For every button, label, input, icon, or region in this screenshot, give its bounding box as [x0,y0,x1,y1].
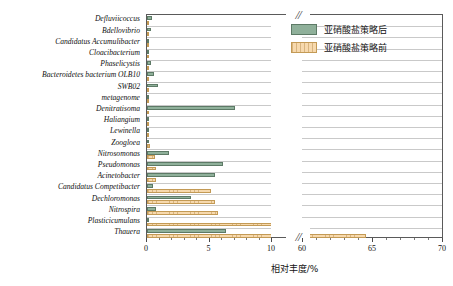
x-minor-tick [234,238,235,240]
bar-before [147,99,149,103]
bar-after [147,128,149,132]
bar-after [147,72,154,76]
x-tick-label: 60 [298,244,306,253]
x-minor-tick [246,238,247,240]
bar-after [147,84,158,88]
bar-before [147,66,149,70]
x-minor-tick [221,238,222,240]
x-minor-tick [386,238,387,240]
bar-after [147,207,156,211]
legend-label-after: 亚硝酸盐策略后 [324,23,387,36]
x-minor-tick [171,238,172,240]
bar-before-continued [303,234,366,238]
chart-legend: 亚硝酸盐策略后 亚硝酸盐策略前 [291,21,435,57]
bar-before [147,200,215,204]
bar-before [147,55,149,59]
x-tick-label: 5 [207,244,211,253]
x-tick-label: 10 [267,244,275,253]
x-axis-title: 相对丰度/% [146,262,443,275]
legend-item-before: 亚硝酸盐策略前 [291,39,435,55]
bar-before [147,144,150,148]
x-minor-tick [358,238,359,240]
bar-before [147,77,149,81]
x-tick [271,238,272,242]
x-minor-tick [330,238,331,240]
bar-after [147,196,191,200]
bar-before [147,178,156,182]
bar-before [147,43,149,47]
bar-after [147,106,235,110]
category-label: Thauera [114,226,140,238]
x-minor-tick [414,238,415,240]
bar-after [147,117,149,121]
bar-chart: DefluviicoccusBdellovibrioCandidatus Acc… [0,0,453,286]
legend-item-after: 亚硝酸盐策略后 [291,21,435,37]
bar-after [147,39,149,43]
legend-label-before: 亚硝酸盐策略前 [324,41,387,54]
bar-before [147,32,149,36]
x-tick [302,238,303,242]
x-minor-tick [428,238,429,240]
x-tick-label: 0 [144,244,148,253]
bar-before [147,122,149,126]
x-tick-label: 65 [368,244,376,253]
bar-after [147,140,149,144]
x-minor-tick [400,238,401,240]
bar-after [147,61,151,65]
legend-swatch-before-icon [291,42,317,53]
bar-before [147,21,149,25]
bar-before [147,189,211,193]
bar-before [147,167,156,171]
x-tick [209,238,210,242]
bar-before [147,88,149,92]
bar-after [147,173,215,177]
bar-before [147,133,149,137]
x-tick [146,238,147,242]
bar-after [147,218,149,222]
x-axis: 0510606570 [146,238,443,284]
category-axis-labels: DefluviicoccusBdellovibrioCandidatus Acc… [0,14,143,238]
bar-after [147,28,151,32]
x-tick [372,238,373,242]
x-minor-tick [196,238,197,240]
x-tick [442,238,443,242]
bar-after [147,151,169,155]
bar-after [147,184,153,188]
bar-before [147,223,272,227]
bar-after [147,95,149,99]
bar-after [147,16,152,20]
x-minor-tick [184,238,185,240]
x-minor-tick [344,238,345,240]
bar-before [147,155,155,159]
x-minor-tick [159,238,160,240]
legend-swatch-after-icon [291,24,317,35]
bar-after [147,229,226,233]
bar-after [147,50,149,54]
x-tick-label: 70 [438,244,446,253]
bar-before [147,234,272,238]
bar-after [147,162,223,166]
bar-before [147,211,218,215]
x-minor-tick [316,238,317,240]
x-minor-tick [259,238,260,240]
bar-before [147,111,149,115]
